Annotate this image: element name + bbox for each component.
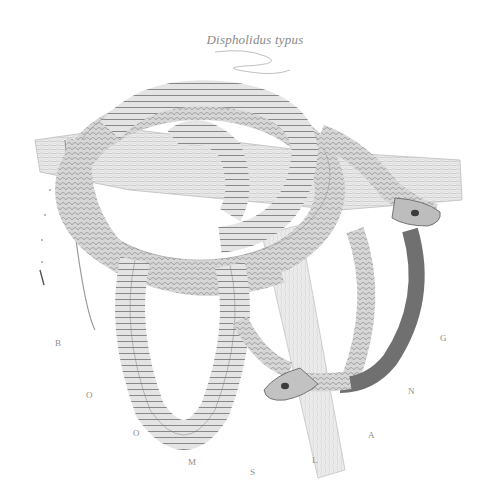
caption-letter-l: L [312,455,318,465]
snake-eye-upper [411,210,419,216]
caption-letter-m: M [188,457,196,467]
caption-letter-o1: O [86,390,93,400]
caption-letter-o2: O [133,428,140,438]
caption-letter-n: N [408,386,415,396]
caption-letter-b: B [55,338,61,348]
caption-letter-s: S [250,467,255,477]
snake-eye-lower [281,383,289,389]
caption-letter-a: A [368,430,375,440]
margin-marks [40,189,51,285]
caption-letter-g: G [440,333,447,343]
title-flourish [205,46,305,78]
illustration-plate: Dispholidus typus B O O M S L A N G [0,0,488,497]
